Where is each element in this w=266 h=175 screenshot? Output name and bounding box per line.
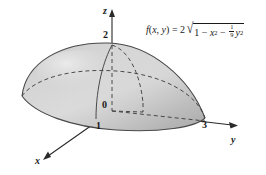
formula-equals: = — [172, 24, 178, 35]
x-axis-label: x — [35, 156, 40, 166]
y-tick-label-3: 3 — [202, 120, 207, 130]
radicand-minus-2: − — [220, 27, 226, 38]
formula-radical: √1 − x2 − 19y2 — [185, 22, 244, 39]
z-axis-label: z — [103, 6, 107, 16]
dome-highlight — [36, 50, 128, 98]
radicand: 1 − x2 − 19y2 — [193, 23, 244, 39]
function-formula: f(x, y) = 2√1 − x2 − 19y2 — [146, 22, 244, 39]
x-axis-arrowhead — [43, 152, 51, 161]
surface-plot-figure: z 2 0 1 3 y x f(x, y) = 2√1 − x2 − 19y2 — [0, 0, 266, 175]
radical-sign: √ — [187, 21, 194, 39]
radicand-y-exponent: 2 — [240, 29, 243, 36]
z-axis-arrowhead — [109, 9, 115, 17]
radicand-x-exponent: 2 — [214, 29, 217, 36]
radicand-one: 1 — [194, 27, 199, 38]
x-tick-label-1: 1 — [96, 121, 101, 131]
z-tick-label-2: 2 — [103, 30, 108, 40]
y-axis-label: y — [231, 135, 235, 145]
fraction-denominator: 9 — [229, 31, 234, 39]
radicand-fraction-one-ninth: 19 — [229, 24, 234, 38]
origin-label: 0 — [102, 100, 107, 110]
y-axis-arrowhead — [229, 122, 238, 129]
formula-close-paren: ) — [166, 24, 169, 35]
radicand-minus-1: − — [202, 27, 208, 38]
